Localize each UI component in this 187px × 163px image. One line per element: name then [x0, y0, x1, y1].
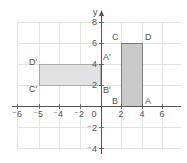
y-tick-label: 8: [92, 17, 97, 27]
vertex-label-d-prime: D': [29, 57, 37, 67]
vertex-label-b-prime: B': [103, 85, 111, 95]
vertex-label-c-prime: C': [29, 84, 37, 94]
x-tick-label: ⁻4: [53, 109, 63, 119]
vertex-label-a: A: [145, 96, 151, 106]
y-tick-label: ⁻2: [87, 123, 97, 133]
x-tick-label: 6: [159, 109, 164, 119]
y-axis-arrow-icon: [99, 10, 104, 16]
x-tick-label: ⁻2: [74, 109, 84, 119]
x-tick-label: ⁻5: [33, 109, 43, 119]
x-tick-label: 0: [91, 109, 96, 119]
x-tick-label: ⁻6: [12, 109, 22, 119]
rectangle-abcd: [122, 44, 143, 107]
y-tick-label: 2: [92, 80, 97, 90]
y-tick-label: ⁻4: [87, 144, 97, 154]
vertex-label-d: D: [145, 32, 152, 42]
vertex-label-a-prime: A': [103, 52, 111, 62]
grid: [17, 22, 181, 150]
x-tick-labels: ⁻6 ⁻5 ⁻4 ⁻2 0 2 4 6: [12, 109, 165, 119]
vertex-label-c: C: [112, 32, 119, 42]
x-tick-label: 4: [139, 109, 144, 119]
y-tick-label: 4: [92, 59, 97, 69]
vertex-label-b: B: [112, 96, 118, 106]
x-tick-label: 2: [118, 109, 123, 119]
y-tick-label: 6: [92, 38, 97, 48]
coordinate-plane: y ⁻6 ⁻5 ⁻4 ⁻2 0 2 4 6 8 6 4 2 ⁻2 ⁻4: [0, 0, 187, 163]
y-axis-label: y: [93, 7, 98, 17]
